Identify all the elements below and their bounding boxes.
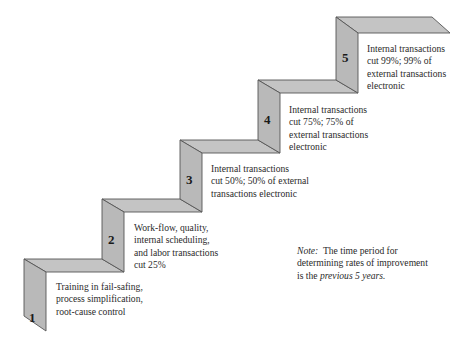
step-3-label: Internal transactions cut 50%; 50% of ex… [211, 163, 309, 200]
step-5-number: 5 [342, 50, 349, 66]
step-2-number: 2 [108, 232, 115, 248]
step-4-label: Internal transactions cut 75%; 75% of ex… [289, 104, 368, 153]
note-text: Note: The time period for determining ra… [297, 245, 428, 282]
step-2-label: Work-flow, quality, internal scheduling,… [134, 222, 218, 271]
note-label: Note: [297, 245, 318, 256]
step-1-number: 1 [29, 310, 36, 326]
step-1-label: Training in fail-safing, process simplif… [56, 281, 143, 318]
step-5-label: Internal transactions cut 99%; 99% of ex… [367, 43, 446, 92]
step-3-number: 3 [186, 172, 193, 188]
step-4-number: 4 [264, 112, 271, 128]
